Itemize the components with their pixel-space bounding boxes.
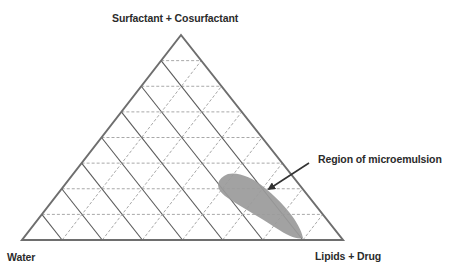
microemulsion-region bbox=[218, 173, 303, 238]
grid-line bbox=[303, 214, 323, 240]
annotation-arrow bbox=[269, 163, 309, 189]
grid-line bbox=[62, 61, 201, 240]
grid-line bbox=[42, 214, 62, 240]
vertex-label-lipids-drug: Lipids + Drug bbox=[315, 250, 381, 262]
grid-line bbox=[121, 112, 222, 240]
ternary-plot-canvas bbox=[0, 0, 459, 275]
grid-line bbox=[82, 163, 143, 240]
annotation-label-microemulsion: Region of microemulsion bbox=[318, 153, 442, 165]
ternary-diagram: Surfactant + Cosurfactant Water Lipids +… bbox=[0, 0, 459, 275]
vertex-label-surfactant-cosurfactant: Surfactant + Cosurfactant bbox=[112, 12, 238, 24]
vertex-label-water: Water bbox=[7, 251, 35, 263]
